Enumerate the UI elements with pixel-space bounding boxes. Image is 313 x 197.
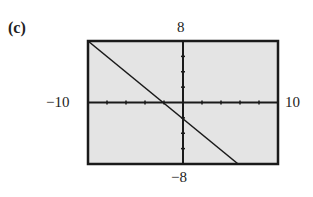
plot-area: [0, 0, 313, 197]
